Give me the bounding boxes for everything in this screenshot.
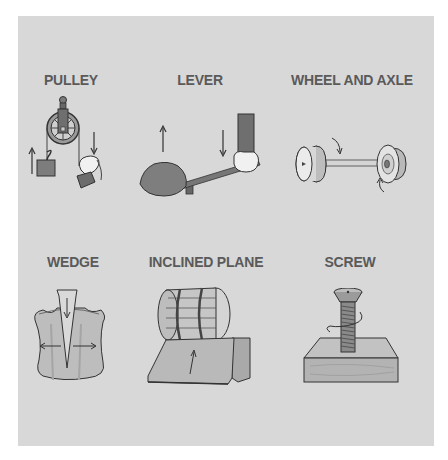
wheel-and-axle-illustration [288, 134, 418, 194]
label-inclined-plane: INCLINED PLANE [136, 254, 276, 270]
lever-illustration [138, 110, 268, 200]
label-wedge: WEDGE [3, 254, 143, 270]
label-lever: LEVER [130, 72, 270, 88]
wedge-illustration [31, 288, 111, 388]
pulley-illustration [21, 94, 121, 198]
screw-illustration [300, 288, 400, 388]
label-screw: SCREW [280, 254, 420, 270]
inclined-plane-illustration [146, 286, 256, 386]
label-pulley: PULLEY [1, 72, 141, 88]
label-wheel-and-axle: WHEEL AND AXLE [282, 72, 422, 88]
